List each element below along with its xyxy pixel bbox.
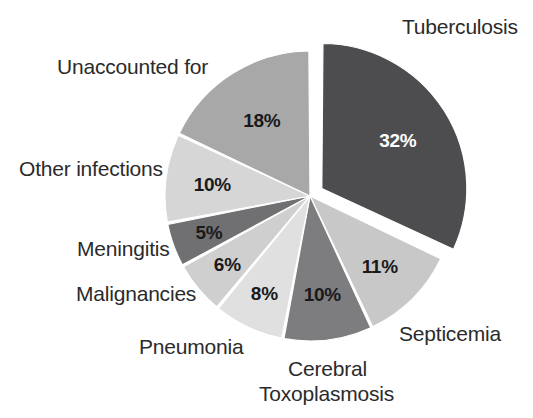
slice-label-malignancies: Malignancies [76, 283, 196, 305]
slice-label-pneumonia: Pneumonia [139, 336, 243, 358]
slice-label-toxoplasmosis: Toxoplasmosis [259, 383, 394, 405]
pie-slice-percent: 32% [379, 130, 417, 151]
slice-label-meningitis: Meningitis [77, 238, 170, 260]
pie-slice-percent: 8% [251, 283, 278, 304]
pie-slice-percent: 6% [214, 254, 241, 275]
pie-slice-percent: 10% [304, 284, 342, 305]
slice-label-other-infections: Other infections [19, 158, 163, 180]
pie-slice-percent: 18% [243, 110, 281, 131]
pie-chart-figure: 32%11%10%8%6%5%10%18% Tuberculosis Unacc… [0, 0, 533, 418]
slice-label-septicemia: Septicemia [399, 323, 501, 345]
pie-slice-percent: 10% [194, 174, 232, 195]
slice-label-tuberculosis: Tuberculosis [402, 16, 518, 38]
slice-label-unaccounted-for: Unaccounted for [57, 56, 208, 78]
pie-slice-percent: 11% [362, 256, 398, 277]
pie-slice-percent: 5% [196, 222, 223, 243]
slice-label-cerebral: Cerebral [288, 358, 367, 380]
